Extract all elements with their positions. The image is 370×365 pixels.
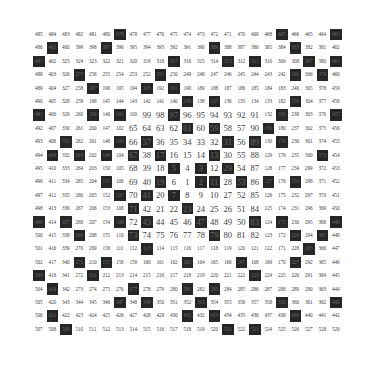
number-cell: 92 (235, 108, 249, 121)
number-cell: 25 (208, 202, 222, 215)
number-cell: 200 (86, 122, 100, 135)
prime-cell: 277 (127, 282, 141, 295)
prime-cell: 227 (289, 256, 303, 269)
number-cell: 75 (154, 229, 168, 242)
number-cell: 332 (59, 149, 73, 162)
number-cell: 486 (32, 41, 46, 54)
number-cell: 256 (86, 68, 100, 81)
number-cell: 465 (302, 28, 316, 41)
number-cell: 502 (32, 256, 46, 269)
number-cell: 304 (302, 95, 316, 108)
number-cell: 494 (32, 149, 46, 162)
prime-cell: 97 (167, 108, 181, 121)
number-cell: 244 (248, 68, 262, 81)
number-cell: 51 (235, 202, 249, 215)
number-cell: 432 (194, 309, 208, 322)
number-cell: 169 (262, 256, 276, 269)
number-cell: 196 (100, 82, 114, 95)
prime-cell: 13 (208, 149, 222, 162)
prime-cell: 479 (113, 28, 127, 41)
number-cell: 477 (140, 28, 154, 41)
number-cell: 429 (154, 309, 168, 322)
number-cell: 228 (289, 242, 303, 255)
number-cell: 60 (194, 122, 208, 135)
number-cell: 208 (86, 229, 100, 242)
prime-cell: 197 (86, 82, 100, 95)
number-cell: 280 (167, 282, 181, 295)
number-cell: 217 (167, 269, 181, 282)
number-cell: 258 (73, 82, 87, 95)
prime-cell: 449 (329, 215, 343, 228)
number-cell: 52 (235, 189, 249, 202)
prime-cell: 271 (73, 256, 87, 269)
number-cell: 32 (208, 135, 222, 148)
number-cell: 153 (100, 202, 114, 215)
number-cell: 121 (248, 242, 262, 255)
number-cell: 312 (235, 55, 249, 68)
number-cell: 202 (86, 149, 100, 162)
number-cell: 124 (262, 215, 276, 228)
number-cell: 385 (262, 41, 276, 54)
number-cell: 264 (73, 162, 87, 175)
number-cell: 390 (194, 41, 208, 54)
number-cell: 459 (329, 82, 343, 95)
number-cell: 36 (154, 135, 168, 148)
number-cell: 386 (248, 41, 262, 54)
prime-cell: 461 (329, 55, 343, 68)
number-cell: 171 (275, 242, 289, 255)
number-cell: 272 (73, 269, 87, 282)
number-cell: 485 (32, 28, 46, 41)
prime-cell: 137 (208, 95, 222, 108)
number-cell: 138 (194, 95, 208, 108)
number-cell: 507 (32, 323, 46, 336)
number-cell: 86 (248, 175, 262, 188)
number-cell: 482 (73, 28, 87, 41)
number-cell: 368 (316, 215, 330, 228)
number-cell: 287 (262, 282, 276, 295)
number-cell: 388 (221, 41, 235, 54)
number-cell: 209 (86, 242, 100, 255)
number-cell: 276 (113, 282, 127, 295)
number-cell: 49 (221, 215, 235, 228)
number-cell: 118 (208, 242, 222, 255)
number-cell: 356 (235, 296, 249, 309)
number-cell: 207 (86, 215, 100, 228)
number-cell: 458 (329, 95, 343, 108)
prime-cell: 127 (262, 175, 276, 188)
number-cell: 322 (100, 55, 114, 68)
number-cell: 9 (194, 189, 208, 202)
number-cell: 325 (59, 55, 73, 68)
number-cell: 262 (73, 135, 87, 148)
prime-cell: 179 (275, 135, 289, 148)
prime-cell: 109 (113, 215, 127, 228)
prime-cell: 131 (262, 122, 276, 135)
number-cell: 330 (59, 122, 73, 135)
number-cell: 316 (181, 55, 195, 68)
number-cell: 188 (208, 82, 222, 95)
number-cell: 218 (181, 269, 195, 282)
number-cell: 182 (275, 95, 289, 108)
number-cell: 94 (208, 108, 222, 121)
number-cell: 236 (289, 135, 303, 148)
number-cell: 295 (302, 215, 316, 228)
number-cell: 20 (154, 189, 168, 202)
number-cell: 462 (329, 41, 343, 54)
number-cell: 394 (140, 41, 154, 54)
number-cell: 345 (86, 296, 100, 309)
number-cell: 424 (86, 309, 100, 322)
number-cell: 216 (154, 269, 168, 282)
number-cell: 352 (181, 296, 195, 309)
number-cell: 370 (316, 189, 330, 202)
number-cell: 134 (248, 95, 262, 108)
prime-cell: 439 (289, 309, 303, 322)
prime-cell: 389 (208, 41, 222, 54)
number-cell: 128 (262, 162, 276, 175)
number-cell: 476 (154, 28, 168, 41)
number-cell: 336 (59, 202, 73, 215)
prime-cell: 313 (221, 55, 235, 68)
number-cell: 85 (248, 189, 262, 202)
number-cell: 164 (194, 256, 208, 269)
number-cell: 504 (32, 282, 46, 295)
prime-cell: 73 (127, 229, 141, 242)
prime-cell: 191 (167, 82, 181, 95)
